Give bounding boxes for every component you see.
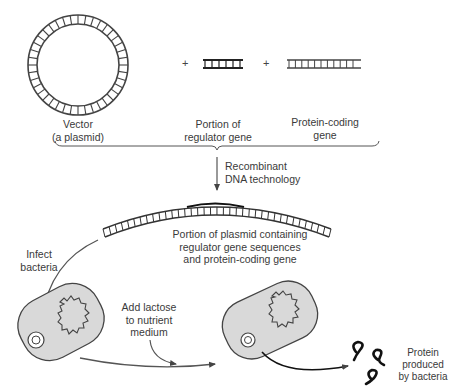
bacterium-before-icon [8,274,114,371]
bacterium-after-icon [214,273,326,368]
recombinant-plasmid-label: Portion of plasmid containing regulator … [140,228,340,266]
protein-produced-label: Protein produced by bacteria [392,347,454,383]
vector-label: Vector (a plasmid) [40,118,116,143]
protein-output-arrow [262,352,348,370]
protein-molecule-icons [353,342,384,384]
protein-coding-gene-ladder-icon [287,60,361,68]
protein-coding-gene-label: Protein-coding gene [280,116,370,141]
add-lactose-label: Add lactose to nutrient medium [114,301,184,339]
regulator-gene-ladder-icon [203,60,243,68]
plus-sign-1: + [182,57,188,69]
growth-arrow [80,358,215,367]
diagram-canvas [0,0,456,390]
plasmid-vector-icon [28,15,128,115]
regulator-gene-label: Portion of regulator gene [180,118,256,143]
infect-bacteria-label: Infect bacteria [14,248,64,273]
recombinant-step-label: Recombinant DNA technology [225,160,300,185]
lactose-arrow [150,340,176,364]
plus-sign-2: + [263,57,269,69]
